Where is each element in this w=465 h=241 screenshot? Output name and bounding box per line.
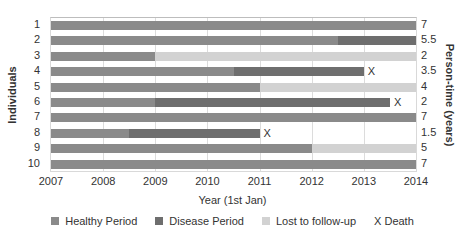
individual-label: 8 — [22, 127, 40, 138]
person-time-value: 5.5 — [421, 34, 436, 45]
healthy-segment — [51, 52, 155, 61]
plot-area: XXX — [50, 17, 417, 172]
individual-row — [51, 52, 416, 61]
healthy-segment — [51, 144, 312, 153]
x-tick-label: 2012 — [292, 176, 332, 187]
individual-label: 1 — [22, 19, 40, 30]
lost-segment — [312, 144, 416, 153]
individual-label: 6 — [22, 96, 40, 107]
individual-label: 9 — [22, 142, 40, 153]
death-marker: X — [394, 97, 401, 108]
individual-row — [51, 160, 416, 169]
x-tick-label: 2008 — [83, 176, 123, 187]
healthy-segment — [51, 129, 129, 138]
legend-label: Healthy Period — [65, 215, 137, 227]
person-time-value: 2 — [421, 50, 427, 61]
individual-label: 4 — [22, 65, 40, 76]
individual-row — [51, 21, 416, 30]
y-axis-title: Individuals — [6, 66, 18, 123]
individual-row: X — [51, 67, 416, 76]
legend-label: Disease Period — [169, 215, 244, 227]
individual-row — [51, 83, 416, 92]
individual-row — [51, 144, 416, 153]
disease-segment — [338, 36, 416, 45]
healthy-segment — [51, 160, 416, 169]
legend-item-healthy: Healthy Period — [51, 215, 137, 227]
individual-row: X — [51, 98, 416, 107]
healthy-segment — [51, 67, 234, 76]
disease-segment — [234, 67, 364, 76]
legend-label: Lost to follow-up — [276, 215, 356, 227]
x-tick-label: 2014 — [396, 176, 436, 187]
lost-segment — [260, 83, 416, 92]
healthy-segment — [51, 83, 260, 92]
right-axis-title: Person-time (years) — [444, 44, 456, 147]
person-time-value: 1.5 — [421, 127, 436, 138]
healthy-segment — [51, 36, 338, 45]
disease-segment — [155, 98, 390, 107]
person-time-value: 3.5 — [421, 65, 436, 76]
death-marker: X — [264, 128, 271, 139]
legend-swatch — [155, 217, 163, 225]
individual-label: 7 — [22, 111, 40, 122]
individual-row — [51, 36, 416, 45]
individual-label: 5 — [22, 81, 40, 92]
individual-row — [51, 113, 416, 122]
legend-item-death: X Death — [374, 215, 414, 227]
person-time-value: 7 — [421, 19, 427, 30]
person-time-value: 7 — [421, 158, 427, 169]
legend-item-disease: Disease Period — [155, 215, 244, 227]
legend-item-lost: Lost to follow-up — [262, 215, 356, 227]
healthy-segment — [51, 21, 416, 30]
legend-swatch — [51, 217, 59, 225]
individual-label: 3 — [22, 50, 40, 61]
legend-label: X Death — [374, 215, 414, 227]
legend-swatch — [262, 217, 270, 225]
healthy-segment — [51, 98, 155, 107]
healthy-segment — [51, 113, 416, 122]
disease-segment — [129, 129, 259, 138]
person-time-value: 5 — [421, 142, 427, 153]
x-tick-label: 2013 — [344, 176, 384, 187]
x-tick-label: 2010 — [187, 176, 227, 187]
person-time-value: 2 — [421, 96, 427, 107]
x-tick-label: 2009 — [135, 176, 175, 187]
legend: Healthy PeriodDisease PeriodLost to foll… — [0, 215, 465, 227]
death-marker: X — [368, 66, 375, 77]
person-time-value: 7 — [421, 111, 427, 122]
individual-label: 10 — [22, 158, 40, 169]
x-tick-label: 2007 — [31, 176, 71, 187]
person-time-value: 4 — [421, 81, 427, 92]
x-tick-label: 2011 — [240, 176, 280, 187]
individual-label: 2 — [22, 34, 40, 45]
x-axis-title: Year (1st Jan) — [0, 194, 465, 206]
individual-row: X — [51, 129, 416, 138]
lost-segment — [155, 52, 416, 61]
